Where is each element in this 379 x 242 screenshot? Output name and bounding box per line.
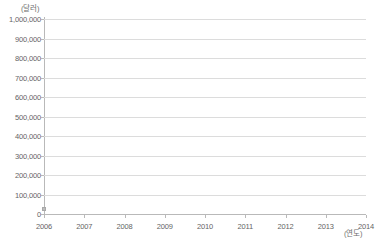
gridline [44,136,366,137]
y-axis-tick-mark [41,97,44,98]
x-axis-tick-label: 2009 [157,222,173,231]
y-axis-tick-mark [41,136,44,137]
x-axis-tick-mark [205,215,206,218]
x-axis-tick-mark [125,215,126,218]
y-axis-tick-label-group: 1,000,000900,000800,000700,000600,000500… [0,0,41,242]
gridline [44,156,366,157]
x-axis-tick-label: 2014 [358,222,374,231]
gridline [44,39,366,40]
y-axis-tick-label: 500,000 [1,112,41,121]
y-axis-tick-label: 800,000 [1,54,41,63]
x-axis-tick-label: 2008 [116,222,132,231]
data-point-marker [42,207,46,211]
gridline [44,58,366,59]
y-axis-tick-mark [41,19,44,20]
x-axis-tick-label: 2011 [237,222,253,231]
gridline [44,19,366,20]
y-axis-tick-mark [41,175,44,176]
x-axis-tick-mark [326,215,327,218]
x-axis-tick-label: 2013 [318,222,334,231]
x-axis-tick-label: 2010 [197,222,213,231]
y-axis-tick-label: 200,000 [1,171,41,180]
y-axis-tick-label: 700,000 [1,73,41,82]
gridline [44,117,366,118]
x-axis-tick-mark [245,215,246,218]
plot-area [44,19,366,214]
x-axis-tick-mark [84,215,85,218]
x-axis-tick-mark [366,215,367,218]
x-axis-tick-label: 2012 [277,222,293,231]
gridline [44,195,366,196]
x-axis-tick-label: 2006 [36,222,52,231]
chart-container: (달러) 1,000,000900,000800,000700,000600,0… [0,0,379,242]
y-axis-tick-label: 900,000 [1,34,41,43]
x-axis-tick-label: 2007 [76,222,92,231]
y-axis-tick-label: 600,000 [1,93,41,102]
y-axis-tick-label: 400,000 [1,132,41,141]
gridline [44,175,366,176]
y-axis-tick-label: 300,000 [1,151,41,160]
gridline [44,78,366,79]
y-axis-tick-mark [41,58,44,59]
y-axis-tick-mark [41,195,44,196]
y-axis-tick-label: 0 [1,210,41,219]
x-axis-tick-mark [44,215,45,218]
y-axis-tick-mark [41,39,44,40]
y-axis-tick-mark [41,78,44,79]
gridline [44,97,366,98]
x-axis-tick-mark [165,215,166,218]
y-axis-tick-mark [41,156,44,157]
y-axis-tick-label: 100,000 [1,190,41,199]
y-axis-tick-mark [41,117,44,118]
y-axis-tick-label: 1,000,000 [1,15,41,24]
x-axis-tick-mark [286,215,287,218]
